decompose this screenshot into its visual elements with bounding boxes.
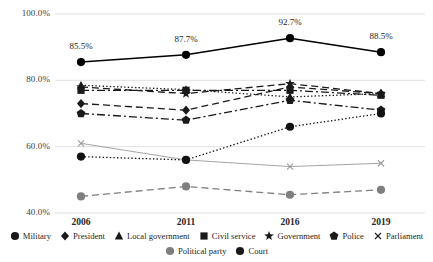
circle-marker-icon [10, 231, 20, 241]
data-point-military-2011 [182, 51, 190, 59]
legend-item-military[interactable]: Military [10, 231, 51, 241]
series-line-political-party [81, 186, 381, 196]
data-point-president-2006 [77, 99, 85, 108]
x-axis-label-2011: 2011 [156, 217, 216, 227]
data-point-president-2011 [182, 106, 190, 115]
data-point-police-2011 [182, 116, 191, 124]
legend-label: Parliament [386, 231, 423, 241]
data-point-military-2016 [286, 34, 294, 42]
data-label-military-2006: 85.5% [53, 41, 109, 51]
pentagon-marker-icon [329, 231, 339, 241]
series-line-court [81, 114, 381, 160]
legend-item-parliament[interactable]: Parliament [373, 231, 423, 241]
data-point-military-2019 [377, 48, 385, 56]
data-point-political-party-2011 [182, 182, 190, 190]
circle-marker-icon [235, 246, 245, 256]
series-line-military [81, 38, 381, 62]
x-axis-label-2006: 2006 [51, 217, 111, 227]
circle-marker-icon [165, 246, 175, 256]
data-point-court-2016 [286, 123, 294, 131]
legend-item-police[interactable]: Police [329, 231, 363, 241]
legend-item-local-government[interactable]: Local government [114, 231, 190, 241]
legend-item-government[interactable]: Government [264, 231, 320, 241]
data-label-military-2011: 87.7% [158, 34, 214, 44]
data-point-political-party-2016 [286, 191, 294, 199]
series-line-government [81, 84, 381, 94]
y-axis-label-2: 60.0% [0, 141, 50, 151]
y-axis-label-3: 40.0% [0, 207, 50, 217]
legend-label: Court [248, 246, 268, 256]
legend-item-court[interactable]: Court [235, 246, 268, 256]
data-point-military-2006 [77, 58, 85, 66]
data-point-civil-service-2016 [286, 87, 293, 94]
y-axis-label-1: 80.0% [0, 74, 50, 84]
legend-item-political-party[interactable]: Political party [165, 246, 226, 256]
legend-label: Political party [178, 246, 226, 256]
chart-legend: MilitaryPresidentLocal governmentCivil s… [0, 228, 433, 258]
data-point-political-party-2006 [77, 192, 85, 200]
diamond-marker-icon [60, 231, 70, 241]
legend-label: Government [277, 231, 320, 241]
star-marker-icon [264, 231, 274, 241]
series-line-civil-service [81, 90, 381, 95]
legend-row-primary: MilitaryPresidentLocal governmentCivil s… [0, 228, 433, 243]
legend-row-secondary: Political partyCourt [0, 243, 433, 258]
x-axis-label-2019: 2019 [351, 217, 411, 227]
legend-item-civil-service[interactable]: Civil service [199, 231, 256, 241]
square-marker-icon [199, 231, 209, 241]
data-point-political-party-2019 [377, 186, 385, 194]
triangle-marker-icon [114, 231, 124, 241]
data-point-court-2019 [377, 109, 385, 117]
gridlines [55, 14, 425, 213]
series-lines [81, 38, 381, 196]
y-axis-label-0: 100.0% [0, 8, 50, 18]
data-label-military-2016: 92.7% [262, 17, 318, 27]
series-line-police [81, 100, 381, 120]
legend-label: Local government [127, 231, 190, 241]
cross-marker-icon [373, 231, 383, 241]
x-axis-label-2016: 2016 [260, 217, 320, 227]
data-point-police-2006 [77, 109, 86, 117]
data-point-court-2011 [182, 156, 190, 164]
legend-item-president[interactable]: President [60, 231, 105, 241]
legend-label: Military [23, 231, 51, 241]
line-chart: 100.0%80.0%60.0%40.0% 2006201120162019 8… [0, 0, 433, 262]
series-line-local-government [81, 85, 381, 97]
legend-label: Police [342, 231, 363, 241]
legend-label: President [73, 231, 105, 241]
legend-label: Civil service [212, 231, 256, 241]
data-label-military-2019: 88.5% [353, 31, 409, 41]
data-point-court-2006 [77, 153, 85, 161]
